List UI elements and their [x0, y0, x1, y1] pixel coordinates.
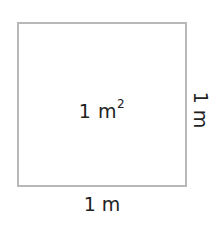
area-unit: m — [98, 100, 117, 122]
area-label: 1 m2 — [19, 100, 185, 122]
area-value: 1 — [79, 100, 92, 122]
right-side-label: 1 m — [189, 90, 213, 130]
unit-square: 1 m2 — [17, 22, 187, 187]
area-exponent: 2 — [117, 97, 125, 111]
bottom-side-label: 1 m — [17, 193, 187, 215]
